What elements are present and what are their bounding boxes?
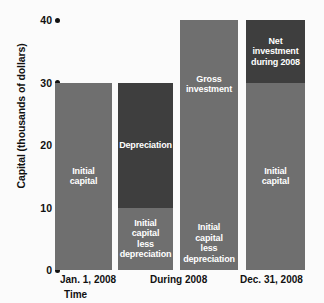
bar-dec-31-2008: Netinvestmentduring 2008Initialcapital — [246, 20, 305, 270]
bar-segment-label: Grossinvestment — [180, 73, 238, 94]
x-axis-title: Time — [64, 289, 87, 300]
bar-segment-dec-31-2008-0: Netinvestmentduring 2008 — [246, 20, 305, 83]
bar-segment-during-2008-depreciation-0: Depreciation — [118, 83, 173, 208]
capital-bar-chart: Capital (thousands of dollars) 010203040… — [0, 0, 324, 303]
bar-segment-label: Netinvestmentduring 2008 — [251, 36, 300, 68]
bar-segment-label: Depreciation — [119, 140, 172, 151]
bar-segment-label: Initialcapitallessdepreciation — [180, 222, 238, 264]
bar-segment-during-2008-gross-investment-1: Initialcapitallessdepreciation — [180, 208, 238, 271]
bar-segment-jan-1-2008-0: Initialcapital — [55, 83, 112, 271]
x-axis-label-2: Dec. 31, 2008 — [240, 274, 303, 285]
bar-jan-1-2008: Initialcapital — [55, 83, 112, 271]
plot-area: InitialcapitalDepreciationInitialcapital… — [0, 0, 324, 303]
bar-during-2008-gross-investment: GrossinvestmentInitialcapitallessdepreci… — [180, 20, 238, 270]
bar-segment-dec-31-2008-1: Initialcapital — [246, 83, 305, 271]
bar-segment-during-2008-gross-investment-0: Grossinvestment — [180, 20, 238, 208]
bar-segment-label: Initialcapital — [70, 166, 97, 187]
x-axis-label-0: Jan. 1, 2008 — [60, 274, 116, 285]
bar-segment-during-2008-depreciation-1: Initialcapitallessdepreciation — [118, 208, 173, 271]
bar-during-2008-depreciation: DepreciationInitialcapitallessdepreciati… — [118, 83, 173, 271]
bar-segment-label: Initialcapital — [262, 166, 289, 187]
x-axis-label-1: During 2008 — [150, 274, 207, 285]
bar-segment-label: Initialcapitallessdepreciation — [120, 218, 172, 260]
